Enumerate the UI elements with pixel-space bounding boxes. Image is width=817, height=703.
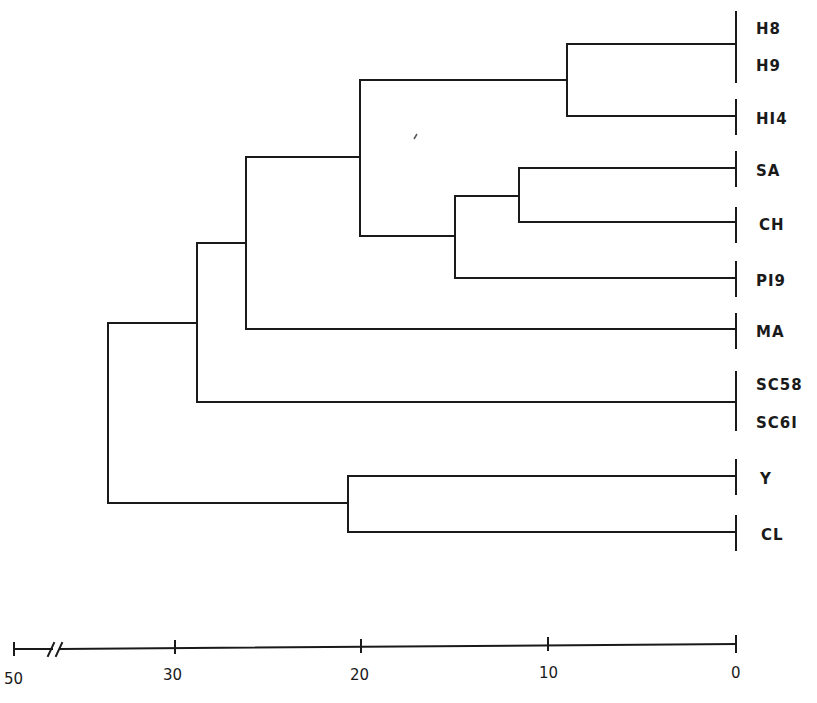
leaf-label-p19: PI9	[756, 272, 786, 290]
branch-sa-ch-p19	[455, 196, 736, 278]
stray-mark	[414, 134, 417, 139]
leaf-label-sc61: SC6I	[756, 414, 798, 432]
leaf-label-ma: MA	[756, 323, 785, 341]
leaf-label-sc58: SC58	[756, 376, 803, 394]
tick-label-30: 30	[163, 666, 182, 684]
tick-label-10: 10	[539, 664, 558, 682]
tick-label-20: 20	[350, 666, 369, 684]
branch-root	[108, 323, 348, 503]
tick-label-50: 50	[4, 670, 23, 688]
branch-with-ma	[246, 157, 736, 329]
branch-h-sa	[360, 80, 567, 236]
branch-sa-ch	[519, 168, 736, 222]
leaf-label-h8: H8	[756, 20, 781, 38]
dendrogram: H8 H9 HI4 SA CH PI9 MA SC58 SC6I Y CL 50…	[0, 0, 817, 703]
x-axis	[14, 636, 736, 656]
leaf-label-y: Y	[759, 470, 772, 488]
leaf-label-ch: CH	[759, 216, 785, 234]
branch-with-sc	[197, 243, 736, 402]
leaf-label-cl: CL	[761, 526, 784, 544]
branch-y-cl	[348, 476, 736, 532]
tick-label-0: 0	[731, 664, 741, 682]
leaf-label-h9: H9	[756, 57, 781, 75]
branch-h-group	[567, 44, 736, 116]
leaf-label-h14: HI4	[756, 110, 788, 128]
leaf-label-sa: SA	[756, 162, 780, 180]
